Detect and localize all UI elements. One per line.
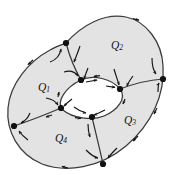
vertex-inner-bottom — [89, 114, 95, 120]
region-label-q3-subscript: 3 — [131, 118, 136, 127]
vertex-outer-bottom — [100, 161, 106, 167]
vertex-outer-left — [11, 123, 17, 129]
vertex-inner-left — [58, 105, 64, 111]
annulus-diagram: Q1 Q2 Q3 Q4 — [0, 0, 175, 175]
diagram-canvas: Q1 Q2 Q3 Q4 — [0, 0, 175, 175]
region-label-q1-subscript: 1 — [46, 85, 50, 94]
vertex-inner-right — [117, 86, 123, 92]
vertex-outer-right — [160, 76, 166, 82]
flow-arrow-inner-top — [94, 76, 100, 77]
vertex-inner-top — [78, 77, 84, 83]
region-label-q2-subscript: 2 — [119, 43, 123, 52]
vertex-outer-upper-left — [63, 40, 69, 46]
flow-arrow-inner-bottom — [75, 118, 81, 119]
region-label-q4-subscript: 4 — [63, 136, 67, 145]
